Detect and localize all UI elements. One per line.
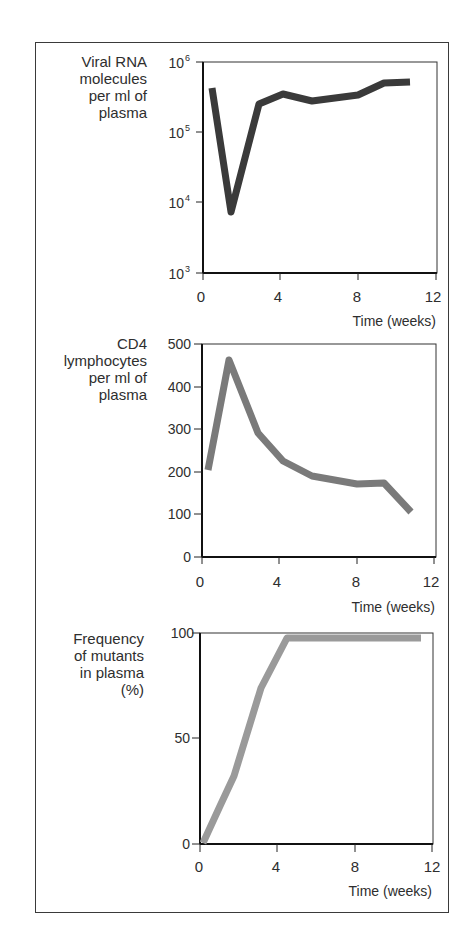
x-tick-label: 0 (195, 858, 203, 875)
plot-area (200, 633, 433, 844)
viral-rna-line (212, 82, 410, 212)
y-tick-label: 500 (168, 336, 192, 352)
x-tick-label: 12 (423, 573, 440, 590)
y-tick-label: 50 (174, 730, 190, 746)
panel2-cd4: 500 400 300 200 100 0 0 4 8 12 Time (wee… (168, 336, 440, 615)
x-tick-label: 4 (274, 288, 282, 305)
y-tick-exponent: 3 (185, 264, 190, 274)
x-tick-label: 0 (197, 288, 205, 305)
y-tick-label: 10 (168, 266, 184, 282)
y-tick-label: 400 (168, 379, 192, 395)
panel1-viral-rna: 10 10 10 10 6 5 4 3 0 4 8 12 Time (w (168, 53, 441, 329)
y-tick-exponent: 4 (185, 193, 190, 203)
y-tick-label: 200 (168, 464, 192, 480)
mutant-frequency-line (203, 638, 421, 843)
x-tick-label: 4 (273, 573, 281, 590)
x-tick-label: 8 (352, 573, 360, 590)
y-tick-label: 10 (168, 125, 184, 141)
plot-area (203, 62, 437, 273)
y-tick-label: 10 (168, 195, 184, 211)
x-tick-label: 8 (353, 288, 361, 305)
panel3-mutant-frequency: 100 50 0 0 4 8 12 Time (weeks) (171, 625, 441, 899)
x-tick-label: 12 (425, 288, 442, 305)
x-tick-label: 4 (272, 858, 280, 875)
y-tick-label: 100 (171, 625, 195, 641)
y-tick-exponent: 6 (185, 53, 190, 63)
x-axis-label: Time (weeks) (349, 883, 433, 899)
y-tick-label: 10 (168, 55, 184, 71)
x-tick-label: 12 (424, 858, 441, 875)
x-tick-label: 0 (196, 573, 204, 590)
x-axis-label: Time (weeks) (353, 313, 437, 329)
y-tick-label: 0 (183, 549, 191, 565)
y-tick-label: 0 (182, 836, 190, 852)
y-tick-label: 100 (168, 506, 192, 522)
y-tick-exponent: 5 (185, 123, 190, 133)
y-tick-label: 300 (168, 421, 192, 437)
x-axis-label: Time (weeks) (352, 599, 436, 615)
charts-svg: 10 10 10 10 6 5 4 3 0 4 8 12 Time (w (0, 0, 466, 952)
x-tick-label: 8 (351, 858, 359, 875)
cd4-line (208, 360, 411, 512)
